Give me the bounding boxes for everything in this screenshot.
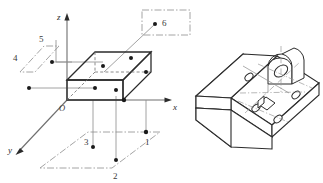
- box-point-1: [144, 70, 148, 74]
- axis-label-z: z: [56, 12, 61, 22]
- bottom-plane-point-1: [144, 130, 148, 134]
- left-plane-point-5: [50, 60, 54, 64]
- left-plane-leader-lines: [29, 40, 72, 88]
- figure-root: z x y O: [0, 0, 323, 183]
- bottom-projection-plane: [40, 132, 160, 168]
- bottom-plane-point-2: [114, 158, 118, 162]
- box-point-6: [129, 56, 133, 60]
- axis-label-y: y: [7, 145, 12, 155]
- engineering-drawing-canvas: z x y O: [0, 0, 323, 183]
- top-plane-point-6: [153, 22, 157, 26]
- projection-connector-lines: [29, 24, 155, 160]
- right-diagram-group: [196, 46, 319, 149]
- box-point-2: [122, 98, 126, 102]
- bottom-plane-point-3: [91, 145, 95, 149]
- point-label-2: 2: [113, 171, 118, 181]
- point-label-3: 3: [84, 137, 89, 147]
- box-point-4: [93, 86, 97, 90]
- isometric-box: [67, 52, 151, 100]
- u-bottom-left-face: [196, 108, 231, 147]
- point-label-4: 4: [13, 53, 18, 63]
- box-point-3: [114, 88, 118, 92]
- left-plane-point-4: [27, 86, 31, 90]
- plane-projection-points: [27, 22, 157, 162]
- boss-group: [268, 48, 304, 84]
- point-label-1: 1: [145, 137, 150, 147]
- point-label-6: 6: [162, 18, 167, 28]
- box-point-5: [101, 64, 105, 68]
- axis-label-x: x: [172, 102, 177, 112]
- left-projection-plane: [20, 46, 59, 72]
- point-label-5: 5: [39, 34, 44, 44]
- left-diagram-group: z x y O: [7, 10, 190, 181]
- origin-label: O: [59, 103, 65, 113]
- isometric-box-hidden-edges: [67, 52, 151, 100]
